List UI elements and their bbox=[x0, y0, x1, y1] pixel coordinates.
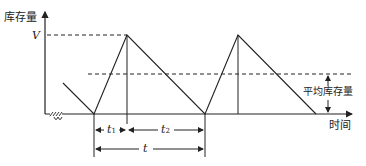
dim-t1-label: t1 bbox=[107, 124, 116, 135]
y-axis-label: 库存量 bbox=[4, 12, 37, 23]
max-level-label: V bbox=[32, 30, 40, 41]
average-inventory-label: 平均库存量 bbox=[303, 87, 353, 97]
inventory-diagram bbox=[0, 0, 366, 166]
dim-t-label: t bbox=[143, 143, 147, 154]
x-axis-label: 时间 bbox=[329, 120, 351, 131]
dim-t2-label: t2 bbox=[161, 124, 170, 135]
